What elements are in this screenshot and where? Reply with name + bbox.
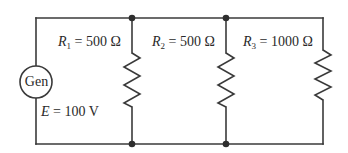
r3-value: = 1000 Ω <box>260 34 313 49</box>
junction-node-top-1 <box>129 15 136 22</box>
r3-subscript: 3 <box>252 41 257 51</box>
r3-label: R3 = 1000 Ω <box>243 35 313 49</box>
resistor-r1 <box>124 18 140 144</box>
r1-value: = 500 Ω <box>75 34 121 49</box>
junction-node-top-2 <box>223 15 230 22</box>
r2-subscript: 2 <box>161 41 166 51</box>
r2-label: R2 = 500 Ω <box>152 35 215 49</box>
generator-label: Gen <box>20 75 53 89</box>
resistor-r3 <box>315 18 331 144</box>
emf-label: E = 100 V <box>41 105 99 119</box>
junction-node-bottom-1 <box>129 141 136 148</box>
r2-value: = 500 Ω <box>169 34 215 49</box>
emf-value: = 100 V <box>53 104 99 119</box>
resistor-r2 <box>218 18 234 144</box>
emf-symbol: E <box>41 104 50 119</box>
resistor-r2-zigzag-icon <box>218 53 234 107</box>
r2-symbol: R <box>152 34 161 49</box>
r1-symbol: R <box>58 34 67 49</box>
r1-label: R1 = 500 Ω <box>58 35 121 49</box>
resistor-r3-zigzag-icon <box>315 50 331 100</box>
r1-subscript: 1 <box>67 41 72 51</box>
resistor-r1-zigzag-icon <box>124 53 140 107</box>
r3-symbol: R <box>243 34 252 49</box>
junction-node-bottom-2 <box>223 141 230 148</box>
